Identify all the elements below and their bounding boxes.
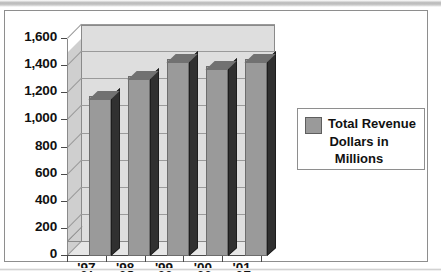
plot-area	[67, 25, 275, 256]
y-axis-tick-label: 1,000	[5, 110, 57, 125]
chart-frame: 02004006008001,0001,2001,4001,600 '97'98…	[4, 10, 428, 262]
legend-entry: Total Revenue	[305, 116, 419, 134]
bar-face	[89, 96, 111, 256]
chart-legend: Total Revenue Dollars in Millions	[297, 108, 425, 170]
gridline	[81, 24, 275, 25]
y-axis-tick-label: 200	[5, 219, 57, 234]
legend-swatch-icon	[305, 117, 322, 134]
depth-corner-line	[67, 241, 82, 256]
bar-97	[89, 96, 111, 256]
y-axis-tick-label: 1,200	[5, 83, 57, 98]
bar-98	[128, 76, 150, 256]
y-axis-tick-label: 0	[5, 246, 57, 261]
x-axis-tick	[67, 256, 68, 262]
x-axis-tick	[222, 256, 223, 262]
page-bottom-rule	[0, 268, 441, 271]
bar-face	[167, 59, 189, 256]
y-axis-tick-label: 1,600	[5, 29, 57, 44]
legend-label-line2: Dollars in	[298, 134, 420, 149]
bar-face	[128, 76, 150, 256]
y-axis-tick-label: 800	[5, 138, 57, 153]
y-axis-tick-label: 400	[5, 192, 57, 207]
gridline	[81, 51, 275, 52]
x-axis-tick	[261, 256, 262, 262]
bar-side-face	[228, 58, 237, 256]
bar-99	[167, 59, 189, 256]
bar-side-face	[150, 68, 159, 256]
bar-side-face	[111, 88, 120, 256]
x-axis-tick	[106, 256, 107, 262]
bar-side-face	[267, 51, 276, 256]
bar-00	[206, 66, 228, 256]
bar-side-face	[189, 51, 198, 256]
legend-label-line3: Millions	[298, 151, 420, 166]
y-axis-tick-label: 600	[5, 165, 57, 180]
x-axis-tick	[145, 256, 146, 262]
plot-left-wall	[67, 39, 81, 256]
y-axis-line	[67, 39, 68, 256]
bar-face	[206, 66, 228, 256]
gridline-depth-connector	[67, 24, 82, 39]
page-top-scan-band	[0, 0, 441, 7]
bar-face	[245, 59, 267, 256]
y-axis-tick-label: 1,400	[5, 56, 57, 71]
bar-01	[245, 59, 267, 256]
x-axis-tick	[183, 256, 184, 262]
legend-label-line1: Total Revenue	[328, 116, 416, 132]
